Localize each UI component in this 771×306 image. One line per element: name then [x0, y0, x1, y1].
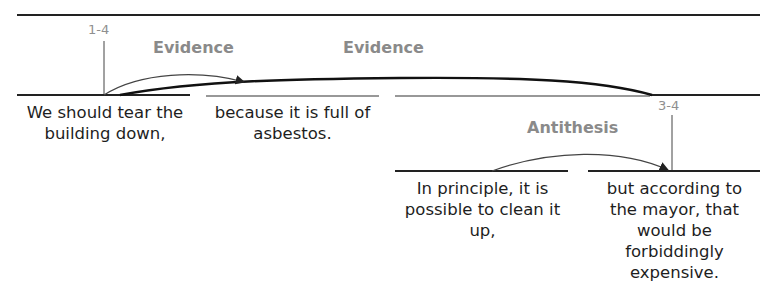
segment-4: but according to the mayor, that would b… [592, 178, 757, 283]
antithesis-arc [492, 154, 668, 171]
segment-3: In principle, it is possible to clean it… [400, 178, 565, 241]
evidence-arc-span [120, 78, 652, 95]
evidence-arc-segment [104, 75, 244, 95]
span-label-1-4: 1-4 [88, 22, 109, 37]
relation-label-evidence-2: Evidence [343, 38, 424, 57]
segment-2: because it is full of asbestos. [200, 102, 385, 144]
relation-label-antithesis: Antithesis [527, 118, 618, 137]
segment-1: We should tear the building down, [10, 102, 200, 144]
span-label-3-4: 3-4 [658, 98, 679, 113]
relation-label-evidence-1: Evidence [153, 38, 234, 57]
